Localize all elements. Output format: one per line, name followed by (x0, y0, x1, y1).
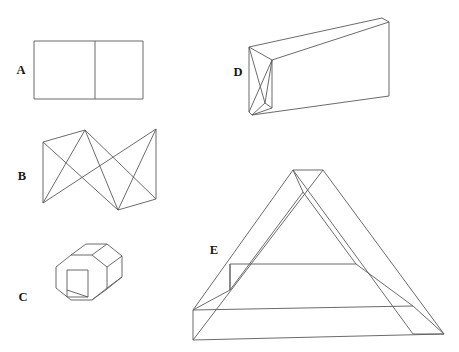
figure-e-label: E (210, 243, 218, 257)
figure-b-diagonal-c (85, 130, 156, 199)
figure-e-right-join (356, 264, 413, 306)
figure-a-label: A (16, 63, 25, 77)
figure-c-slot-inner-bevel (67, 290, 88, 297)
figure-b-label: B (18, 169, 26, 183)
figure-d-crease-v-right (265, 60, 272, 103)
figure-e-inner-triangle (230, 192, 356, 290)
figure-b-upper-fold (85, 130, 118, 210)
figure-b-diagonal-a (43, 130, 85, 203)
figure-a-outline (34, 41, 143, 99)
figure-d-bottom-far (252, 96, 389, 115)
figure-c-edge-right-lower (107, 277, 122, 288)
figure-e-right-bar-outer (293, 170, 444, 334)
figure-c-slot-outline (67, 270, 88, 297)
figure-d-crease-lower-right (265, 103, 272, 108)
figure-d-label: D (233, 65, 242, 79)
figure-d-top-ridge (249, 18, 382, 47)
figure-e: E (193, 170, 444, 340)
figure-d: D (233, 18, 389, 115)
figure-d-inner-ridge (272, 22, 389, 60)
figure-e-corner-bottom-right (413, 306, 444, 334)
figure-a: A (16, 41, 143, 99)
figure-d-ridge-cap (382, 18, 389, 22)
figure-d-bottom-near (249, 112, 252, 115)
figure-e-bottom-bar-outer (193, 334, 444, 340)
figure-b: B (18, 129, 156, 210)
figures-canvas: A B C (0, 0, 459, 352)
figure-c-edge-right-upper (107, 256, 122, 267)
figure-c: C (18, 244, 122, 304)
figure-e-left-join (193, 290, 230, 310)
figure-e-bottom-bar-inner (193, 306, 413, 310)
figure-c-label: C (18, 290, 27, 304)
figure-c-front-octagon (56, 255, 107, 300)
figure-c-back-octagon-visible (71, 244, 122, 300)
figure-c-edge-top-right (92, 244, 107, 255)
figure-b-lower-fold (43, 142, 118, 210)
figure-b-bottom-rim (118, 199, 156, 210)
figure-plate: A B C (0, 0, 459, 352)
